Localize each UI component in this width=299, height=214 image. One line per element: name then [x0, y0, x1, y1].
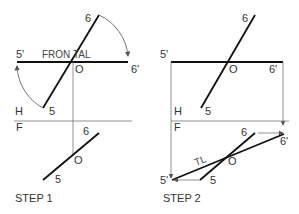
label-6-prime: 6': [131, 63, 139, 75]
rotation-arc-5: [17, 66, 43, 108]
label-h: H: [174, 105, 182, 117]
label-frontal: FRON TAL: [42, 49, 91, 60]
label-o: O: [75, 63, 84, 75]
drawing-canvas: 6 5' FRON TAL 6' O H 5 F 6 O 5 STEP 1 6 …: [0, 0, 299, 214]
label-5-front: 5: [210, 174, 216, 186]
step1-diagram: 6 5' FRON TAL 6' O H 5 F 6 O 5 STEP 1: [14, 12, 139, 204]
line-6-5-front-view: [43, 133, 99, 180]
step1-caption: STEP 1: [15, 192, 53, 204]
label-6-front: 6: [83, 125, 89, 137]
label-5: 5: [49, 105, 55, 117]
label-6-prime: 6': [269, 63, 277, 75]
label-f: F: [16, 121, 23, 133]
step2-diagram: 6 5' O 6' H 5 F 6 6' TL O 5' 5 STEP 2: [160, 12, 289, 204]
label-6: 6: [85, 12, 91, 24]
rotation-arc-6: [99, 15, 128, 56]
label-5: 5: [205, 105, 211, 117]
label-o-front: O: [74, 154, 83, 166]
step2-caption: STEP 2: [163, 192, 201, 204]
label-5-prime: 5': [16, 48, 24, 60]
label-5-prime: 5': [160, 48, 168, 60]
label-6: 6: [242, 12, 248, 24]
label-5-prime-front: 5': [160, 174, 168, 186]
label-o-front: O: [228, 155, 237, 167]
label-6-prime-front: 6': [280, 135, 288, 147]
label-o: O: [229, 63, 238, 75]
label-5-front: 5: [55, 173, 61, 185]
label-6-front: 6: [241, 126, 247, 138]
label-h: H: [15, 105, 23, 117]
label-f: F: [174, 121, 181, 133]
